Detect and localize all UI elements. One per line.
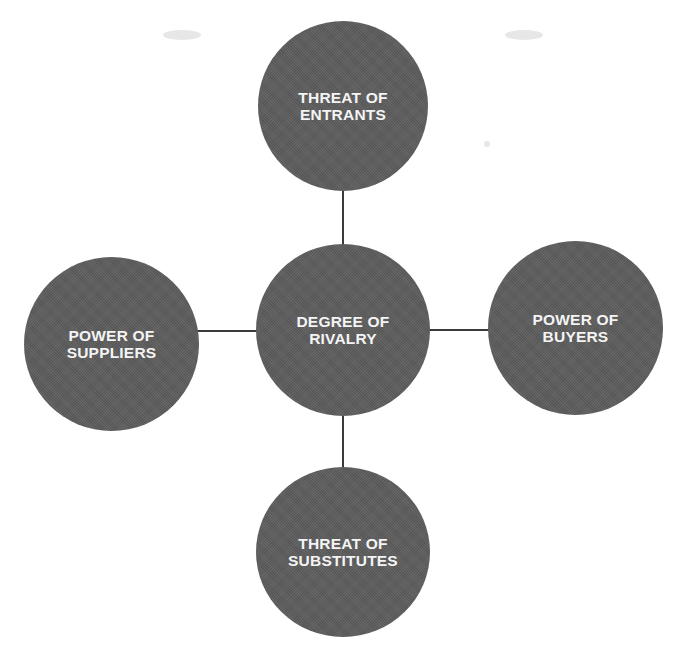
node-label: DEGREE OF RIVALRY [296, 313, 389, 347]
node-label: THREAT OF SUBSTITUTES [288, 535, 398, 569]
node-power-of-suppliers: POWER OF SUPPLIERS [24, 257, 199, 431]
scan-noise [484, 141, 490, 147]
connector-center-left [197, 330, 258, 332]
node-label: THREAT OF ENTRANTS [298, 89, 387, 123]
node-degree-of-rivalry: DEGREE OF RIVALRY [256, 244, 430, 416]
connector-center-right [429, 329, 489, 331]
connector-center-bottom [342, 414, 344, 469]
connector-center-top [342, 190, 344, 246]
node-label: POWER OF SUPPLIERS [67, 327, 157, 361]
scan-noise [163, 30, 201, 40]
node-threat-of-entrants: THREAT OF ENTRANTS [258, 21, 428, 191]
node-label: POWER OF BUYERS [533, 311, 619, 345]
node-threat-of-substitutes: THREAT OF SUBSTITUTES [256, 467, 430, 637]
five-forces-diagram: THREAT OF ENTRANTS DEGREE OF RIVALRY POW… [0, 0, 679, 665]
scan-noise [505, 30, 543, 40]
node-power-of-buyers: POWER OF BUYERS [488, 241, 663, 415]
